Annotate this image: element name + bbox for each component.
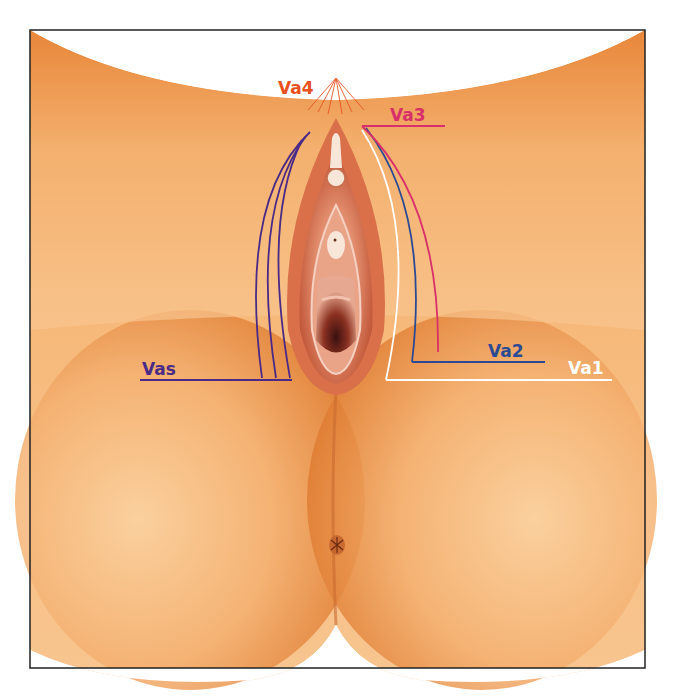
anus-illustration bbox=[329, 535, 345, 555]
label-va1: Va1 bbox=[568, 358, 604, 378]
label-va2: Va2 bbox=[488, 341, 524, 361]
label-va4: Va4 bbox=[278, 78, 314, 98]
label-vas: Vas bbox=[142, 359, 176, 379]
label-va3: Va3 bbox=[390, 105, 426, 125]
anatomy-diagram: Vas Va1 Va2 Va3 Va4 bbox=[0, 0, 673, 699]
